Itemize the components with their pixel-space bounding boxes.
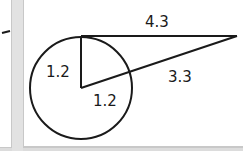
label-radius-secant: 1.2 (93, 92, 117, 110)
geometry-figure: 4.3 1.2 1.2 3.3 (0, 0, 243, 151)
label-tangent-length: 4.3 (145, 13, 169, 31)
label-radius-vertical: 1.2 (46, 63, 70, 81)
label-external-segment: 3.3 (168, 68, 192, 86)
